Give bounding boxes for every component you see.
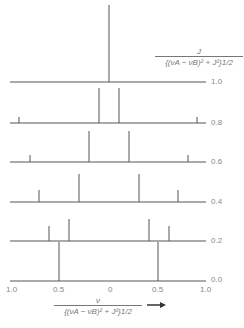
numerator: J bbox=[155, 47, 243, 56]
x-tick: 0.5 bbox=[152, 285, 163, 294]
x-axis-label: ν {(νA − νB)² + J²}1/2 bbox=[54, 296, 142, 316]
x-tick: 0.5 bbox=[53, 285, 64, 294]
coupling-ratio-label: J {(νA − νB)² + J²}1/2 bbox=[155, 47, 243, 67]
ratio-label: 0.4 bbox=[211, 197, 222, 206]
x-tick: 1.0 bbox=[200, 285, 211, 294]
ratio-label: 0.6 bbox=[211, 157, 222, 166]
ratio-label: 1.0 bbox=[211, 77, 222, 86]
denominator: {(νA − νB)² + J²}1/2 bbox=[54, 305, 142, 316]
ratio-label: 0.8 bbox=[211, 118, 222, 127]
ratio-label: 0.0 bbox=[211, 275, 222, 284]
ratio-label: 0.2 bbox=[211, 236, 222, 245]
numerator: ν bbox=[54, 296, 142, 305]
x-tick: 0 bbox=[108, 285, 112, 294]
x-tick: 1.0 bbox=[6, 285, 17, 294]
denominator: {(νA − νB)² + J²}1/2 bbox=[155, 56, 243, 67]
arrow-right-icon bbox=[147, 302, 166, 308]
